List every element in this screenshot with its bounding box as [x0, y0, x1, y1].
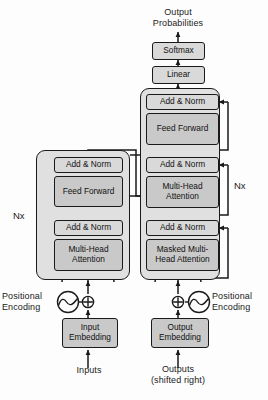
- linear-label: Linear: [153, 70, 204, 80]
- softmax-block: Softmax: [152, 42, 205, 60]
- decoder-repeat-label: Nx: [234, 180, 246, 191]
- dec-add-norm-2-block: Add & Norm: [146, 157, 219, 173]
- dec-masked-multi-head-attention-block: Masked Multi-Head Attention: [146, 239, 219, 271]
- output-embedding-block: Output Embedding: [151, 318, 209, 348]
- enc-multi-head-attention-block: Multi-Head Attention: [54, 239, 123, 271]
- sum-icon-left-cross: [83, 297, 93, 307]
- sine-wave-icon-left-path: [59, 299, 78, 306]
- enc-add-norm-1-label: Add & Norm: [55, 223, 122, 233]
- positional-encoding-right-label: Positional Encoding: [212, 291, 268, 312]
- dec-feed-forward-label: Feed Forward: [147, 124, 218, 134]
- enc-add-norm-2-label: Add & Norm: [55, 160, 122, 170]
- enc-add-norm-1-block: Add & Norm: [54, 220, 123, 236]
- dec-multi-head-attention-label: Multi-Head Attention: [147, 182, 218, 201]
- dec-add-norm-1-label: Add & Norm: [147, 223, 218, 233]
- sum-icon-right-cross: [173, 297, 183, 307]
- dec-add-norm-3-label: Add & Norm: [147, 97, 218, 107]
- enc-add-norm-2-block: Add & Norm: [54, 157, 123, 173]
- dec-masked-multi-head-attention-label: Masked Multi-Head Attention: [147, 245, 218, 264]
- positional-encoding-left-label: Positional Encoding: [2, 291, 56, 312]
- dec-feed-forward-block: Feed Forward: [146, 113, 219, 145]
- outputs-label: Outputs (shifted right): [138, 364, 218, 385]
- output-embedding-label: Output Embedding: [152, 323, 208, 342]
- dec-add-norm-2-label: Add & Norm: [147, 160, 218, 170]
- sine-wave-icon-right-path: [190, 299, 209, 306]
- input-embedding-label: Input Embedding: [63, 323, 117, 342]
- enc-feed-forward-block: Feed Forward: [54, 176, 123, 207]
- enc-multi-head-attention-label: Multi-Head Attention: [55, 245, 122, 264]
- enc-feed-forward-label: Feed Forward: [55, 187, 122, 197]
- encoder-repeat-label: Nx: [13, 210, 25, 221]
- dec-multi-head-attention-block: Multi-Head Attention: [146, 176, 219, 208]
- transformer-architecture-figure: Nx Nx Softmax Linear Add & Norm Feed For…: [0, 0, 268, 400]
- linear-block: Linear: [152, 66, 205, 84]
- input-embedding-block: Input Embedding: [62, 318, 118, 348]
- inputs-label: Inputs: [58, 365, 120, 376]
- softmax-label: Softmax: [153, 46, 204, 56]
- output-probabilities-label: Output Probabilities: [136, 7, 220, 28]
- dec-add-norm-3-block: Add & Norm: [146, 94, 219, 110]
- dec-add-norm-1-block: Add & Norm: [146, 220, 219, 236]
